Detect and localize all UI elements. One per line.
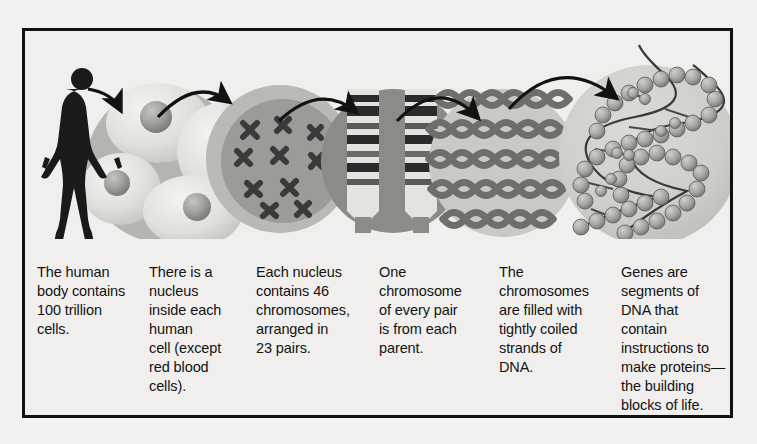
caption-human-body: The human body contains 100 trillion cel… xyxy=(37,263,149,339)
caption-row: The human body contains 100 trillion cel… xyxy=(25,239,730,415)
illustration-area xyxy=(25,31,730,239)
illustration-svg xyxy=(25,31,730,239)
coiled-dna-strands-icon xyxy=(429,89,577,237)
dna-double-helix-icon xyxy=(559,45,730,239)
caption-coiled-dna: The chromosomes are filled with tightly … xyxy=(499,263,621,377)
caption-dna-helix: Genes are segments of DNA that contain i… xyxy=(621,263,731,415)
caption-chromosome-pair: One chromosome of every pair is from eac… xyxy=(379,263,491,358)
diagram-frame: The human body contains 100 trillion cel… xyxy=(22,28,733,418)
caption-nucleus-chromosomes: Each nucleus contains 46 chromosomes, ar… xyxy=(256,263,374,358)
caption-cells: There is a nucleus inside each human cel… xyxy=(149,263,253,396)
